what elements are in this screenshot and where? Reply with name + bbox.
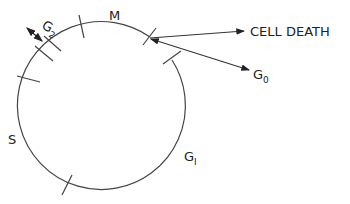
tick-g2-b xyxy=(35,46,53,61)
label-g1: GI xyxy=(184,149,197,167)
tick-g1-start xyxy=(163,51,181,64)
cycle-arc xyxy=(17,22,185,190)
label-cell-death: CELL DEATH xyxy=(250,24,330,39)
cell-cycle-diagram: M G2 S GI CELL DEATH G0 xyxy=(0,0,350,204)
arrow-cell-death xyxy=(150,31,244,38)
label-g2: G2 xyxy=(38,17,60,40)
label-g0: G0 xyxy=(253,67,269,85)
tick-s-bottom xyxy=(62,175,72,195)
arrow-g0 xyxy=(151,39,249,70)
label-m: M xyxy=(109,8,120,23)
label-s: S xyxy=(8,132,16,147)
tick-g2-m xyxy=(79,15,84,38)
tick-m-g1 xyxy=(143,28,156,45)
